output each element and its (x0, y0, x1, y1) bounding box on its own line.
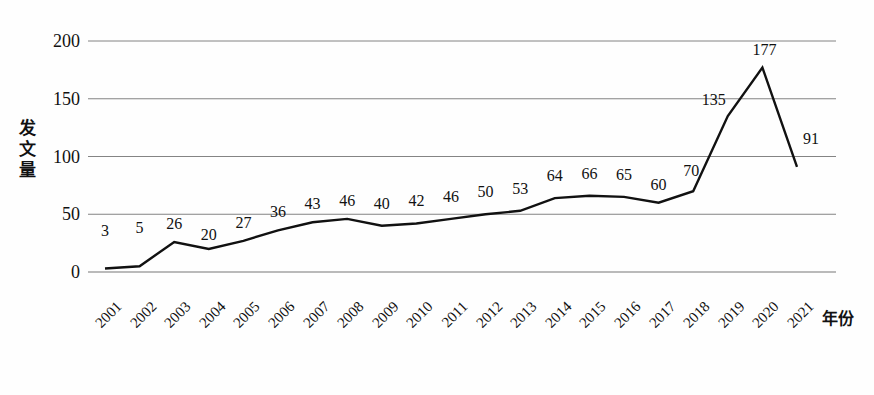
x-axis-title: 年份 (822, 311, 854, 327)
x-tick-2017: 2017 (638, 299, 678, 339)
x-tick-2014: 2014 (534, 299, 574, 339)
data-label-2009: 40 (374, 196, 390, 212)
y-tick-200: 200 (36, 32, 80, 50)
data-label-2013: 53 (512, 181, 528, 197)
data-label-2004: 20 (201, 227, 217, 243)
x-tick-2016: 2016 (603, 299, 643, 339)
data-label-2006: 36 (270, 204, 286, 220)
plot-area (88, 30, 836, 285)
plot-svg (88, 30, 836, 285)
data-label-2001: 3 (101, 223, 109, 239)
data-label-2015: 66 (581, 166, 597, 182)
x-tick-2021: 2021 (776, 299, 816, 339)
data-label-2011: 46 (443, 189, 459, 205)
y-tick-100: 100 (36, 148, 80, 166)
data-label-2017: 60 (651, 177, 667, 193)
x-tick-2007: 2007 (292, 299, 332, 339)
x-tick-2019: 2019 (707, 299, 747, 339)
data-label-2007: 43 (305, 196, 321, 212)
x-tick-2013: 2013 (499, 299, 539, 339)
data-label-2016: 65 (616, 167, 632, 183)
data-label-2010: 42 (408, 193, 424, 209)
y-tick-50: 50 (36, 205, 80, 223)
x-tick-2018: 2018 (672, 299, 712, 339)
x-tick-2012: 2012 (465, 299, 505, 339)
x-tick-2015: 2015 (569, 299, 609, 339)
x-tick-2011: 2011 (430, 299, 470, 339)
data-label-2014: 64 (547, 168, 563, 184)
x-tick-2002: 2002 (119, 299, 159, 339)
data-label-2020: 177 (752, 42, 776, 58)
x-tick-2004: 2004 (188, 299, 228, 339)
data-label-2008: 46 (339, 193, 355, 209)
data-label-2019: 135 (702, 92, 726, 108)
x-tick-2020: 2020 (742, 299, 782, 339)
data-label-2012: 50 (478, 184, 494, 200)
y-tick-150: 150 (36, 90, 80, 108)
x-tick-2001: 2001 (84, 299, 124, 339)
line-chart: 发 文 量 050100150200 352620273643464042465… (0, 0, 874, 395)
data-label-2003: 26 (166, 216, 182, 232)
y-axis-title-char-1: 发 (14, 118, 40, 139)
x-tick-2010: 2010 (396, 299, 436, 339)
x-tick-2008: 2008 (326, 299, 366, 339)
x-tick-2006: 2006 (257, 299, 297, 339)
x-tick-2003: 2003 (153, 299, 193, 339)
data-label-2018: 70 (683, 163, 699, 179)
x-tick-2005: 2005 (223, 299, 263, 339)
x-tick-2009: 2009 (361, 299, 401, 339)
y-tick-0: 0 (36, 263, 80, 281)
data-label-2005: 27 (235, 215, 251, 231)
data-label-2002: 5 (136, 220, 144, 236)
data-label-2021: 91 (803, 131, 819, 147)
